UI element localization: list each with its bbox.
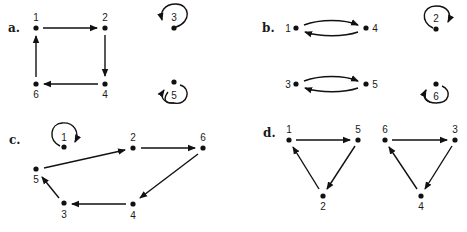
node [363, 81, 368, 86]
edge-1-4 [304, 21, 358, 26]
node-label: 1 [286, 124, 292, 135]
nodes-d [286, 137, 457, 198]
node-label: 3 [61, 209, 67, 220]
node [102, 25, 107, 30]
node [171, 79, 176, 84]
node [452, 137, 457, 142]
node [382, 137, 387, 142]
node-label: 6 [382, 124, 388, 135]
node-label: 4 [418, 201, 424, 212]
node-label: 5 [171, 90, 177, 101]
node [293, 25, 298, 30]
panel-label: b. [262, 21, 275, 35]
node-label: 4 [130, 210, 136, 221]
node-label: 2 [433, 13, 439, 24]
edge-3-5 [42, 177, 59, 198]
node [433, 81, 438, 86]
edge-4-1 [305, 32, 358, 36]
panel-b: b. 1 4 3 5 2 6 [262, 6, 450, 103]
panel-label: d. [263, 126, 276, 140]
node-label: 4 [102, 89, 108, 100]
node [355, 137, 360, 142]
node [433, 26, 438, 31]
edge-5-2 [327, 146, 355, 189]
node [320, 193, 325, 198]
node-label: 2 [102, 12, 108, 23]
node [33, 166, 38, 171]
node-label: 3 [171, 12, 177, 23]
node [363, 25, 368, 30]
node-label: 1 [61, 132, 67, 143]
node-label: 6 [200, 132, 206, 143]
node [130, 201, 135, 206]
panel-label: a. [8, 21, 20, 35]
node [33, 25, 38, 30]
node-label: 6 [33, 89, 39, 100]
node [200, 145, 205, 150]
node-label: 1 [285, 23, 291, 34]
node [61, 144, 66, 149]
edge-5-3 [305, 88, 358, 92]
node [171, 25, 176, 30]
node-label: 5 [372, 79, 378, 90]
node-label: 5 [355, 124, 361, 135]
panel-label: c. [9, 133, 20, 147]
edge-5-2 [44, 150, 125, 168]
node [286, 137, 291, 142]
node [418, 193, 423, 198]
node-label: 4 [372, 23, 378, 34]
edge-3-4 [425, 146, 452, 189]
node [33, 81, 38, 86]
panel-c: c. 1 2 6 5 3 4 [9, 123, 206, 221]
edge-3-5 [304, 77, 358, 82]
edge-4-6 [389, 147, 417, 189]
permutation-digraphs: a. 1 2 4 6 3 5 b. [0, 0, 467, 232]
node [293, 81, 298, 86]
node [130, 145, 135, 150]
edge-6-4 [140, 154, 198, 198]
panel-a: a. 1 2 4 6 3 5 [8, 4, 187, 103]
node-label: 1 [33, 12, 39, 23]
node-label: 2 [320, 201, 326, 212]
node-label: 3 [452, 124, 458, 135]
node [61, 200, 66, 205]
edge-2-1 [293, 147, 319, 189]
node-label: 6 [433, 91, 439, 102]
panel-d: d. 1 5 2 6 3 4 [263, 124, 458, 212]
node-label: 3 [285, 79, 291, 90]
node-label: 5 [33, 174, 39, 185]
node-label: 2 [130, 132, 136, 143]
node [102, 81, 107, 86]
